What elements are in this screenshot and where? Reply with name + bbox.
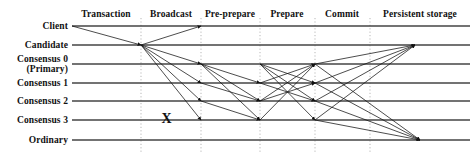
message-arrow-candidate-to-consensus2-4: [141, 45, 201, 101]
lane-label-text: Candidate: [25, 40, 68, 51]
phase-header-persistent-storage: Persistent storage: [383, 9, 457, 19]
lane-label-text: Ordinary: [29, 135, 68, 146]
phase-divider-layer: [141, 18, 370, 152]
lane-label-text: (Primary): [17, 64, 68, 75]
message-arrow-consensus0-to-consensus1-6: [201, 64, 260, 83]
message-arrow-candidate-to-client-1: [141, 26, 201, 45]
lane-label-text: Client: [43, 21, 68, 32]
message-arrow-consensus0-to-candidate-19: [315, 45, 415, 64]
phase-header-transaction: Transaction: [81, 9, 130, 19]
lane-line-layer: [72, 26, 470, 140]
lane-label-text: Consensus 2: [17, 96, 68, 107]
message-arrow-consensus1-to-consensus2-9: [201, 83, 260, 101]
phase-header-prepare: Prepare: [270, 9, 303, 19]
message-arrow-consensus0-to-ordinary-23: [315, 64, 420, 140]
phase-header-commit: Commit: [325, 9, 359, 19]
message-arrow-client-to-candidate-0: [72, 26, 141, 45]
lane-label-ordinary: Ordinary: [29, 135, 68, 146]
lane-label-client: Client: [43, 21, 68, 32]
message-arrow-consensus2-to-candidate-21: [315, 45, 415, 101]
phase-header-pre-prepare: Pre-prepare: [205, 9, 255, 19]
message-arrow-consensus3-to-ordinary-26: [315, 120, 420, 140]
faulty-node-x-icon: X: [162, 112, 172, 126]
lane-label-consensus3: Consensus 3: [17, 115, 68, 126]
lane-label-text: Consensus 0: [17, 54, 68, 65]
lane-label-consensus2: Consensus 2: [17, 96, 68, 107]
pbft-consensus-diagram: ClientCandidateConsensus 0(Primary)Conse…: [0, 0, 474, 156]
lane-label-text: Consensus 3: [17, 115, 68, 126]
lane-label-consensus0: Consensus 0(Primary): [17, 54, 68, 75]
diagram-canvas: [0, 0, 474, 156]
phase-header-broadcast: Broadcast: [150, 9, 192, 19]
lane-label-consensus1: Consensus 1: [17, 78, 68, 89]
message-arrow-candidate-to-consensus0-2: [141, 45, 201, 64]
lane-label-candidate: Candidate: [25, 40, 68, 51]
message-arrow-consensus2-to-consensus3-10: [201, 101, 260, 120]
lane-label-text: Consensus 1: [17, 78, 68, 89]
message-arrow-consensus1-to-ordinary-24: [315, 83, 420, 140]
